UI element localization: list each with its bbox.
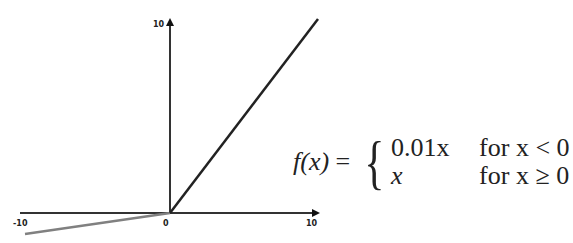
formula-cases: 0.01x for x < 0 x for x ≥ 0: [391, 134, 569, 190]
x-tick-10: 10: [306, 219, 318, 228]
case2-expression: x: [391, 162, 479, 190]
case1-expression: 0.01x: [391, 134, 479, 162]
leaky-relu-formula: f(x) = { 0.01x for x < 0 x for x ≥ 0: [293, 132, 570, 192]
leaky-relu-plot: 10 -10 0 10: [0, 0, 573, 243]
y-tick-10: 10: [153, 20, 165, 29]
x-tick-neg10: -10: [13, 219, 28, 228]
x-tick-0: 0: [163, 219, 169, 228]
case2-condition: for x ≥ 0: [479, 162, 569, 190]
formula-equals: =: [336, 147, 351, 176]
case1-condition: for x < 0: [479, 134, 569, 162]
curly-brace-icon: {: [365, 132, 385, 192]
formula-lhs: f(x) =: [293, 147, 350, 177]
formula-fx: f(x): [293, 147, 329, 176]
negative-branch-line: [25, 213, 170, 234]
